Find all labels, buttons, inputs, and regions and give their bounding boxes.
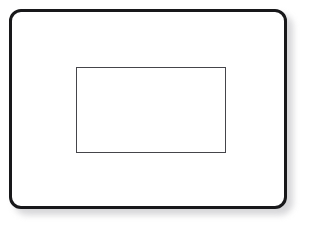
inner-rectangle[interactable] [76,67,226,153]
diagram-canvas [0,0,311,228]
inner-rectangle-label [77,68,225,152]
outer-rounded-rectangle[interactable] [9,9,287,209]
